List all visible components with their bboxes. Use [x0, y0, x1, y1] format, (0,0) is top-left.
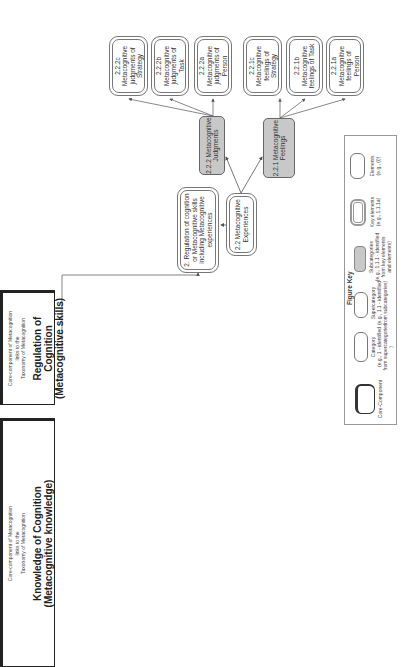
core-subtitle-line: (Metacognitive skills): [54, 293, 65, 404]
core-subtitle-line: (Metacognitive knowledge): [43, 421, 54, 666]
core-title-line: Knowledge of Cognition: [32, 421, 43, 666]
element-2-2-1a: 2.2.1aMetacognitive feelings of Person: [326, 36, 364, 96]
element-label: Metacognitive feelings of Person: [338, 46, 360, 86]
subcategory-judgments: 2.2.2 Metacognitive Judgments: [199, 116, 225, 175]
subcategory-label: 2.2.2 Metacognitive Judgments: [205, 117, 220, 174]
core-caption: Core-component of Metacognition links to…: [7, 421, 27, 666]
supercategory-label: 2.2 Metacognitive Experiences: [234, 197, 249, 252]
core-title: Regulation of Cognition (Metacognitive s…: [32, 293, 65, 404]
core-title-line: Regulation of Cognition: [32, 293, 54, 404]
element-label: Metacognitive judgments of Task: [163, 46, 185, 86]
key-swatch-category: [354, 332, 368, 362]
element-code: 2.2.1c: [248, 57, 255, 75]
key-label-supercategory: Supercategory(e.g., 1.1 - identified fro…: [370, 280, 388, 326]
element-2-2-2a: 2.2.2aMetacognitive judgments of Person: [194, 36, 232, 96]
element-label: Metacognitive feelings of Task: [301, 44, 316, 89]
key-swatch-key-element: [350, 199, 366, 226]
caption-line: Taxonomy of Metacognition: [20, 293, 27, 404]
element-2-2-2c: 2.2.2cMetacognitive judgments of Strateg…: [109, 36, 148, 96]
caption-line: Taxonomy of Metacognition: [20, 421, 27, 666]
key-swatch-supercategory: [354, 292, 368, 318]
element-code: 2.2.1b: [293, 57, 300, 75]
metacognition-diagram: Core-component of Metacognition links to…: [0, 0, 419, 667]
core-component-knowledge: Core-component of Metacognition links to…: [0, 418, 55, 667]
category-box: 2. Regulation of cognition or Metacognit…: [177, 187, 219, 273]
element-label: Metacognitive feelings of Strategy: [255, 46, 277, 86]
key-label-category: Category(e.g., 1 - identified from super…: [370, 322, 394, 372]
key-label-key-element: Key elements(e.g., 1.1.1a): [369, 192, 381, 232]
key-label-element: Elements(e.g., (i)): [369, 148, 381, 184]
element-2-2-1b: 2.2.1bMetacognitive feelings of Task: [286, 36, 323, 96]
element-2-2-2b: 2.2.2bMetacognitive judgments of Task: [151, 36, 189, 96]
subcategory-label: 2.2.1 Metacognitive Feelings: [272, 119, 287, 177]
element-code: 2.2.2b: [155, 57, 162, 75]
category-label: 2. Regulation of cognition or Metacognit…: [183, 191, 213, 269]
key-swatch-core: [355, 384, 375, 414]
key-label-subcategory: Subcategories(e.g., 1.1.1 - identified f…: [368, 232, 392, 282]
element-2-2-1c: 2.2.1cMetacognitive feelings of Strategy: [243, 36, 282, 96]
element-code: 2.2.1a: [330, 57, 337, 75]
figure-key: Figure Key Core-Component Category(e.g.,…: [344, 135, 397, 425]
key-swatch-element: [350, 153, 365, 179]
core-caption: Core-component of Metacognition links to…: [7, 293, 27, 404]
core-title: Knowledge of Cognition (Metacognitive kn…: [32, 421, 54, 666]
supercategory-box: 2.2 Metacognitive Experiences: [226, 193, 257, 256]
core-component-regulation: Core-component of Metacognition links to…: [0, 290, 55, 405]
figure-key-title: Figure Key: [346, 271, 353, 305]
element-code: 2.2.2c: [114, 57, 121, 75]
key-swatch-subcategory: [354, 246, 366, 272]
key-label-core: Core-Component: [377, 376, 383, 422]
element-label: Metacognitive judgments of Strategy: [121, 46, 143, 86]
element-code: 2.2.2a: [198, 57, 205, 75]
element-label: Metacognitive judgments of Person: [206, 46, 228, 86]
subcategory-feelings: 2.2.1 Metacognitive Feelings: [263, 118, 295, 178]
